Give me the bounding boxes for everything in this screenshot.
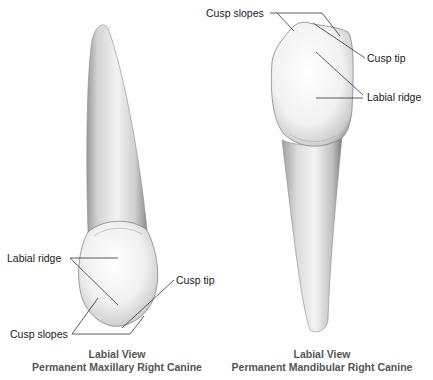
dental-diagram: Labial ridge Cusp tip Cusp slopes Cusp s…: [0, 0, 433, 380]
maxillary-root: [87, 25, 147, 232]
mandibular-root: [282, 136, 342, 332]
label-labial-ridge-right: Labial ridge: [367, 91, 421, 103]
label-cusp-slopes-right: Cusp slopes: [206, 7, 264, 19]
label-cusp-tip-right: Cusp tip: [367, 52, 406, 64]
caption-right-tooth: Permanent Mandibular Right Canine: [222, 361, 422, 374]
mandibular-crown: [271, 22, 353, 146]
maxillary-canine-tooth: [79, 25, 158, 326]
label-labial-ridge-left: Labial ridge: [7, 252, 61, 264]
caption-left: Labial View Permanent Maxillary Right Ca…: [22, 348, 212, 374]
caption-right: Labial View Permanent Mandibular Right C…: [222, 348, 422, 374]
label-cusp-slopes-left: Cusp slopes: [10, 328, 68, 340]
caption-right-view: Labial View: [222, 348, 422, 361]
caption-left-view: Labial View: [22, 348, 212, 361]
caption-left-tooth: Permanent Maxillary Right Canine: [22, 361, 212, 374]
maxillary-crown: [79, 221, 158, 326]
label-cusp-tip-left: Cusp tip: [176, 274, 215, 286]
mandibular-canine-tooth: [271, 22, 353, 332]
